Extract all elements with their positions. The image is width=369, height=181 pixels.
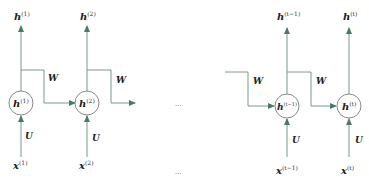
incoming-weight-label: W — [253, 76, 264, 86]
ellipsis-bottom: ··· — [175, 170, 182, 178]
input-label: x(2) — [78, 159, 93, 171]
input-label: x(t) — [340, 164, 354, 176]
input-label: x(t−1) — [275, 164, 298, 176]
output-label: h(2) — [80, 10, 96, 22]
output-label: h(t) — [343, 10, 357, 22]
input-weight-label: U — [292, 135, 301, 145]
input-label: x(1) — [12, 159, 27, 171]
ellipsis-middle: ··· — [175, 102, 182, 110]
cell-1: h(1) h(1) x(1) U W — [9, 10, 75, 171]
rnn-diagram: h(1) h(1) x(1) U W h(2) h(2) x(2) U W ··… — [0, 0, 369, 181]
output-label: h(t−1) — [277, 10, 300, 22]
input-weight-label: U — [355, 135, 364, 145]
cell-2: h(2) h(2) x(2) U W — [75, 10, 135, 171]
output-label: h(1) — [14, 10, 30, 22]
cell-t-minus-1: h(t−1) h(t−1) x(t−1) U W W — [225, 10, 336, 176]
cell-t: h(t) h(t) x(t) U — [337, 10, 364, 176]
incoming-recurrent-arrow — [225, 72, 274, 106]
recurrent-weight-label: W — [48, 73, 59, 83]
input-weight-label: U — [92, 133, 101, 143]
recurrent-weight-label: W — [116, 75, 127, 85]
recurrent-weight-label: W — [316, 76, 327, 86]
input-weight-label: U — [25, 131, 34, 141]
